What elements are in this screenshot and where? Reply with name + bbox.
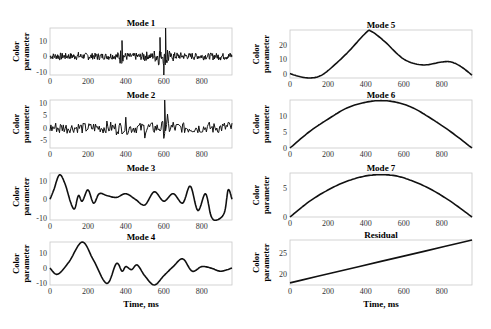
x-tick-label: 800 [196, 150, 208, 159]
y-axis-label: Color [11, 41, 21, 62]
y-tick-label: -10 [36, 68, 47, 77]
y-axis-label: Color [251, 184, 261, 205]
subplot-title: Residual [364, 230, 398, 240]
subplot-mode-5: Mode 5010200200400600800Colorparameter [251, 20, 472, 90]
x-tick-label: 400 [120, 77, 132, 86]
x-tick-label: 600 [398, 287, 410, 296]
x-tick-label: 400 [360, 219, 372, 228]
y-axis-label: parameter [21, 32, 31, 70]
y-tick-label: 10 [39, 177, 47, 186]
x-tick-label: 600 [158, 77, 170, 86]
y-axis-label: Color [11, 186, 21, 207]
x-tick-label: 200 [82, 150, 94, 159]
y-tick-label: 25 [279, 249, 287, 258]
x-tick-label: 400 [120, 150, 132, 159]
subplot-residual: Residual20250200400600800ColorparameterT… [251, 230, 472, 310]
y-tick-label: 10 [279, 112, 287, 121]
subplot-title: Mode 6 [367, 90, 396, 100]
subplot-mode-2: Mode 2-505100200400600800Colorparameter [11, 90, 232, 160]
y-axis-label: Color [11, 113, 21, 134]
x-tick-label: 0 [48, 150, 52, 159]
x-tick-label: 800 [196, 287, 208, 296]
y-axis-label: parameter [21, 244, 31, 282]
y-axis-label: parameter [21, 177, 31, 215]
y-axis-label: Color [11, 253, 21, 274]
subplot-title: Mode 4 [127, 232, 156, 242]
x-tick-label: 600 [158, 222, 170, 231]
x-tick-label: 800 [196, 77, 208, 86]
x-tick-label: 200 [82, 287, 94, 296]
axes-box [50, 28, 232, 75]
subplot-mode-3: Mode 3-100100200400600800Colorparameter [11, 163, 232, 232]
x-tick-label: 400 [120, 287, 132, 296]
x-tick-label: 0 [288, 150, 292, 159]
axes-box [50, 100, 232, 148]
y-tick-label: 5 [283, 184, 287, 193]
subplot-mode-1: Mode 1-100100200400600800Colorparameter [11, 18, 232, 87]
x-tick-label: 600 [398, 219, 410, 228]
x-tick-label: 600 [398, 150, 410, 159]
x-tick-label: 200 [82, 222, 94, 231]
y-axis-label: Color [251, 252, 261, 273]
x-tick-label: 200 [322, 287, 334, 296]
y-tick-label: 10 [39, 37, 47, 46]
x-tick-label: 800 [196, 222, 208, 231]
y-tick-label: 0 [283, 144, 287, 153]
subplot-title: Mode 2 [127, 90, 156, 100]
x-tick-label: 600 [158, 287, 170, 296]
x-tick-label: 400 [360, 80, 372, 89]
y-tick-label: 5 [43, 111, 47, 120]
subplot-mode-6: Mode 605100200400600800Colorparameter [251, 90, 472, 160]
x-tick-label: 200 [322, 150, 334, 159]
subplot-title: Mode 1 [127, 18, 156, 28]
subplot-mode-4: Mode 4-100100200400600800ColorparameterT… [11, 232, 232, 310]
subplot-title: Mode 5 [367, 20, 396, 30]
x-tick-label: 800 [436, 219, 448, 228]
y-tick-label: 10 [279, 55, 287, 64]
x-tick-label: 800 [436, 80, 448, 89]
x-tick-label: 600 [158, 150, 170, 159]
y-tick-label: 0 [43, 264, 47, 273]
y-axis-label: parameter [21, 105, 31, 143]
subplot-title: Mode 7 [367, 163, 396, 173]
y-tick-label: 0 [43, 124, 47, 133]
y-tick-label: 10 [39, 99, 47, 108]
x-tick-label: 0 [288, 80, 292, 89]
figure: Mode 1-100100200400600800ColorparameterM… [0, 0, 491, 329]
x-tick-label: 200 [322, 219, 334, 228]
subplot-title: Mode 3 [127, 163, 156, 173]
x-tick-label: 800 [436, 150, 448, 159]
axes-box [290, 173, 472, 217]
x-tick-label: 600 [398, 80, 410, 89]
y-tick-label: 0 [43, 52, 47, 61]
subplot-mode-7: Mode 7050200400600800Colorparameter [251, 163, 472, 229]
x-tick-label: 400 [360, 150, 372, 159]
y-tick-label: 0 [283, 213, 287, 222]
y-axis-label: Color [251, 113, 261, 134]
x-tick-label: 0 [48, 222, 52, 231]
y-axis-label: parameter [261, 243, 271, 281]
x-axis-label: Time, ms [123, 299, 159, 309]
x-tick-label: 400 [360, 287, 372, 296]
x-axis-label: Time, ms [363, 299, 399, 309]
y-tick-label: -10 [36, 279, 47, 288]
x-tick-label: 0 [288, 219, 292, 228]
y-tick-label: -10 [36, 214, 47, 223]
y-tick-label: 0 [43, 195, 47, 204]
y-axis-label: parameter [261, 105, 271, 143]
y-tick-label: -5 [40, 136, 47, 145]
y-tick-label: 10 [39, 249, 47, 258]
y-axis-label: Color [251, 43, 261, 64]
y-tick-label: 20 [279, 41, 287, 50]
y-axis-label: parameter [261, 176, 271, 214]
y-axis-label: parameter [261, 35, 271, 73]
x-tick-label: 200 [322, 80, 334, 89]
y-tick-label: 5 [283, 128, 287, 137]
x-tick-label: 0 [288, 287, 292, 296]
y-tick-label: 0 [283, 70, 287, 79]
axes-box [290, 30, 472, 78]
x-tick-label: 200 [82, 77, 94, 86]
axes-box [290, 100, 472, 148]
x-tick-label: 400 [120, 222, 132, 231]
x-tick-label: 0 [48, 287, 52, 296]
